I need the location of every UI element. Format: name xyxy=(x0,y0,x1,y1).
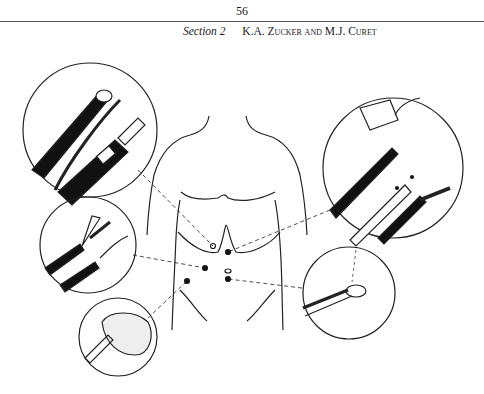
callout-graspers xyxy=(323,98,463,246)
authors: K.A. Zucker and M.J. Curet xyxy=(242,25,376,37)
port-sites xyxy=(185,244,232,284)
page-number: 56 xyxy=(0,4,484,19)
callout-trocar xyxy=(303,247,395,339)
running-head: Section 2 K.A. Zucker and M.J. Curet xyxy=(183,25,377,37)
laparoscopy-illustration xyxy=(0,40,484,394)
leader-lines xyxy=(133,170,330,318)
callout-retrieval-bag xyxy=(79,298,157,376)
callout-forceps xyxy=(40,197,136,293)
section-label: Section 2 xyxy=(183,25,225,37)
header-rule xyxy=(0,21,484,22)
torso-outline xyxy=(147,116,307,330)
callout-laparoscope xyxy=(23,63,157,205)
